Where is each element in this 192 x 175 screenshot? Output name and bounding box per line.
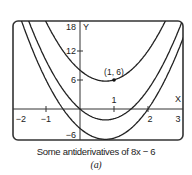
point-label: (1, 6): [104, 67, 124, 77]
y-tick-6: 6: [71, 75, 76, 85]
y-tick-m6: −6: [66, 130, 76, 140]
y-tick-12: 12: [66, 46, 76, 56]
x-tick-1: 1: [111, 95, 116, 105]
x-tick-m1: −1: [41, 114, 51, 124]
chart-subcaption: (a): [0, 159, 192, 170]
x-tick-m2: −2: [16, 114, 26, 124]
chart-caption: Some antiderivatives of 8x − 6: [0, 146, 192, 157]
x-tick-3: 3: [175, 114, 180, 124]
y-axis-label: Y: [83, 22, 89, 32]
ticks: [46, 51, 148, 112]
y-tick-18: 18: [66, 22, 76, 32]
x-tick-2: 2: [147, 114, 152, 124]
x-axis-label: X: [175, 94, 181, 104]
point-marker: [112, 78, 116, 82]
curve-1: [0, 0, 188, 120]
